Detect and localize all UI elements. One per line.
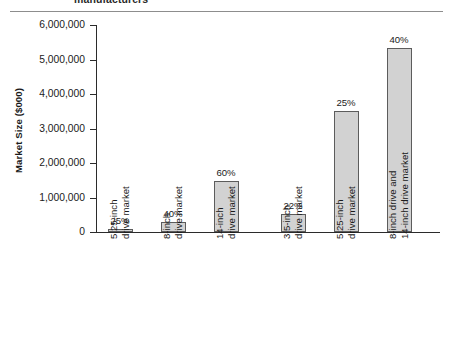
x-axis-category-label: 5.25-inchdrive market xyxy=(334,186,357,239)
y-axis-tick-mark xyxy=(90,129,96,130)
x-axis-category-label-line: drive market xyxy=(120,186,132,239)
x-axis-category-label-line: 3.5-inch xyxy=(281,186,293,239)
y-axis-tick-mark xyxy=(90,163,96,164)
y-axis-tick-mark xyxy=(90,232,96,233)
x-axis-category-label-line: drive market xyxy=(346,186,358,239)
x-axis-category-label-line: 14-inch xyxy=(214,186,226,239)
x-axis-category-label-line: 8-inch drive and xyxy=(387,152,399,239)
x-axis-category-label: 8-inchdrive market xyxy=(161,186,184,239)
y-axis-tick-mark xyxy=(90,60,96,61)
x-axis-category-label-line: 14-inch drive market xyxy=(399,152,411,239)
x-axis-category-label-line: 8-inch xyxy=(161,186,173,239)
y-axis-tick-mark xyxy=(90,94,96,95)
bar-chart: Market Size ($000) 6,000,0005,000,0004,0… xyxy=(0,0,451,356)
x-axis-category-label: 5.25-inchdrive market xyxy=(108,186,131,239)
x-axis-category-label-line: drive market xyxy=(293,186,305,239)
x-axis-category-label: 8-inch drive and14-inch drive market xyxy=(387,152,410,239)
x-axis-category-label: 3.5-inchdrive market xyxy=(281,186,304,239)
x-axis-category-labels: 5.25-inchdrive market8-inchdrive market1… xyxy=(0,0,451,356)
x-axis-category-label-line: 5.25-inch xyxy=(108,186,120,239)
x-axis-category-label-line: drive market xyxy=(226,186,238,239)
y-axis-tick-mark xyxy=(90,198,96,199)
x-axis-category-label: 14-inchdrive market xyxy=(214,186,237,239)
x-axis-category-label-line: drive market xyxy=(173,186,185,239)
y-axis-tick-mark xyxy=(90,25,96,26)
x-axis-category-label-line: 5.25-inch xyxy=(334,186,346,239)
